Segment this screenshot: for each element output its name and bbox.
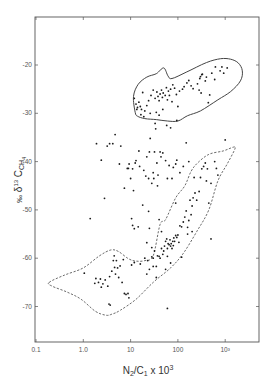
data-point: [152, 257, 154, 259]
data-point: [157, 185, 159, 187]
data-point: [146, 105, 148, 107]
data-point: [157, 174, 159, 176]
data-point: [131, 218, 133, 220]
data-point: [95, 278, 97, 280]
data-point: [148, 100, 150, 102]
data-point: [184, 216, 186, 218]
data-point: [176, 159, 178, 161]
data-point: [182, 88, 184, 90]
data-point: [149, 227, 151, 229]
data-point: [200, 76, 202, 78]
data-point: [117, 267, 119, 269]
data-point: [144, 257, 146, 259]
data-point: [182, 166, 184, 168]
plot-frame: [35, 17, 259, 342]
data-point: [176, 237, 178, 239]
data-point: [107, 285, 109, 287]
data-point: [198, 89, 200, 91]
data-point: [155, 277, 157, 279]
data-point: [111, 270, 113, 272]
x-axis-ticks: 0.11.01010010³: [31, 17, 230, 353]
data-point: [191, 205, 193, 207]
data-point: [119, 265, 121, 267]
data-point: [210, 182, 212, 184]
data-point: [158, 255, 160, 257]
data-point: [176, 120, 178, 122]
data-point: [138, 101, 140, 103]
data-point: [127, 293, 129, 295]
data-point: [221, 66, 223, 68]
data-point: [116, 260, 118, 262]
y-axis-title: ‰ δ13 CCH4: [13, 157, 27, 203]
data-point: [170, 245, 172, 247]
data-point: [118, 277, 120, 279]
data-point: [166, 87, 168, 89]
data-point: [149, 112, 151, 114]
data-point: [210, 238, 212, 240]
data-point: [141, 109, 143, 111]
data-point: [94, 282, 96, 284]
data-point: [182, 221, 184, 223]
data-point: [148, 178, 150, 180]
data-point: [192, 197, 194, 199]
data-point: [109, 276, 111, 278]
data-point: [155, 111, 157, 113]
data-point: [149, 268, 151, 270]
data-point: [165, 268, 167, 270]
data-point: [190, 85, 192, 87]
data-point: [202, 73, 204, 75]
data-point: [194, 192, 196, 194]
y-tick-label: -30: [23, 109, 33, 116]
data-point: [223, 72, 225, 74]
data-point: [156, 91, 158, 93]
data-point: [100, 286, 102, 288]
data-point: [191, 231, 193, 233]
data-point: [167, 308, 169, 310]
data-point: [172, 167, 174, 169]
data-point: [167, 178, 169, 180]
data-point: [162, 152, 164, 154]
data-point: [181, 226, 183, 228]
data-point: [172, 240, 174, 242]
data-point: [144, 110, 146, 112]
data-point: [155, 266, 157, 268]
svg-text:‰ δ13 CCH4: ‰ δ13 CCH4: [13, 157, 27, 203]
data-point: [154, 123, 156, 125]
data-point: [168, 90, 170, 92]
data-point: [137, 226, 139, 228]
data-point: [128, 297, 130, 299]
data-point: [106, 145, 108, 147]
data-point: [124, 293, 126, 295]
data-point: [114, 267, 116, 269]
data-point: [219, 70, 221, 72]
data-point: [197, 83, 199, 85]
y-tick-label: -50: [23, 206, 33, 213]
data-point: [217, 174, 219, 176]
data-point: [216, 168, 218, 170]
data-point: [214, 79, 216, 81]
data-point: [157, 96, 159, 98]
data-point: [109, 143, 111, 145]
data-point: [96, 143, 98, 145]
data-point: [133, 262, 135, 264]
data-point: [152, 89, 154, 91]
data-point: [100, 159, 102, 161]
data-point: [170, 88, 172, 90]
scatter-chart: 0.11.01010010³ -20-30-40-50-60-70 N2/C1 …: [0, 0, 275, 383]
data-point: [153, 178, 155, 180]
data-point: [190, 214, 192, 216]
data-point: [121, 282, 123, 284]
data-point: [100, 278, 102, 280]
data-point: [150, 95, 152, 97]
data-point: [140, 114, 142, 116]
data-point: [164, 95, 166, 97]
y-tick-label: -20: [23, 61, 33, 68]
x-tick-label: 100: [172, 346, 183, 353]
data-point: [181, 256, 183, 258]
data-point: [135, 160, 137, 162]
data-point: [143, 116, 145, 118]
data-point: [134, 162, 136, 164]
data-point: [215, 66, 217, 68]
data-point: [193, 177, 195, 179]
data-point: [174, 87, 176, 89]
